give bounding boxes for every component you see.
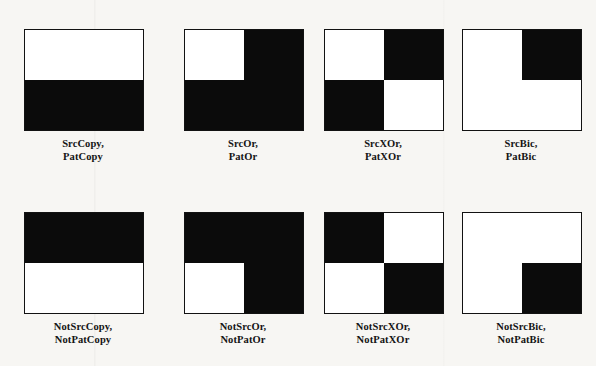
mode-cell-srcxor[interactable]: SrcXOr, PatXOr <box>318 22 448 182</box>
quadrant-bottom-right <box>244 80 303 130</box>
quadrant-bottom-right <box>384 80 443 130</box>
mode-cell-srcor[interactable]: SrcOr, PatOr <box>178 22 308 182</box>
pattern-swatch-srcor <box>184 29 304 131</box>
quadrant-bottom-right <box>84 80 143 130</box>
mode-cell-srccopy[interactable]: SrcCopy, PatCopy <box>18 22 148 182</box>
quadrant-top-right <box>522 30 581 80</box>
caption-line-2: PatCopy <box>18 150 148 163</box>
quadrant-bottom-right <box>84 263 143 313</box>
pattern-swatch-srcbic <box>462 29 582 131</box>
quadrant-top-right <box>384 30 443 80</box>
pattern-swatch-notsrcbic <box>462 212 582 314</box>
quadrant-bottom-right <box>244 263 303 313</box>
quadrant-top-left <box>185 213 244 263</box>
quadrant-bottom-right <box>522 80 581 130</box>
quadrant-top-left <box>463 213 522 263</box>
caption-line-1: NotSrcOr, <box>178 320 308 333</box>
quadrant-top-right <box>244 213 303 263</box>
mode-caption-notsrccopy: NotSrcCopy, NotPatCopy <box>18 320 148 346</box>
mode-cell-notsrccopy[interactable]: NotSrcCopy, NotPatCopy <box>18 205 148 365</box>
caption-line-2: PatBic <box>456 150 586 163</box>
caption-line-1: SrcXOr, <box>318 137 448 150</box>
raster-transfer-modes-figure: SrcCopy, PatCopy SrcOr, PatOr <box>0 0 596 366</box>
source-modes-row: SrcCopy, PatCopy SrcOr, PatOr <box>0 22 596 182</box>
quadrant-top-right <box>244 30 303 80</box>
mode-caption-srccopy: SrcCopy, PatCopy <box>18 137 148 163</box>
quadrant-bottom-left <box>25 80 84 130</box>
quadrant-bottom-right <box>384 263 443 313</box>
mode-cell-notsrcxor[interactable]: NotSrcXOr, NotPatXOr <box>318 205 448 365</box>
mode-caption-srcbic: SrcBic, PatBic <box>456 137 586 163</box>
caption-line-1: SrcBic, <box>456 137 586 150</box>
quadrant-bottom-left <box>325 80 384 130</box>
quadrant-top-right <box>384 213 443 263</box>
quadrant-bottom-left <box>185 80 244 130</box>
mode-caption-notsrcor: NotSrcOr, NotPatOr <box>178 320 308 346</box>
mode-cell-notsrcbic[interactable]: NotSrcBic, NotPatBic <box>456 205 586 365</box>
quadrant-bottom-left <box>185 263 244 313</box>
pattern-swatch-notsrcor <box>184 212 304 314</box>
caption-line-1: SrcCopy, <box>18 137 148 150</box>
caption-line-2: PatOr <box>178 150 308 163</box>
pattern-swatch-notsrcxor <box>324 212 444 314</box>
quadrant-top-right <box>522 213 581 263</box>
quadrant-top-right <box>84 213 143 263</box>
caption-line-2: NotPatCopy <box>18 333 148 346</box>
quadrant-bottom-right <box>522 263 581 313</box>
quadrant-top-left <box>463 30 522 80</box>
quadrant-bottom-left <box>25 263 84 313</box>
quadrant-bottom-left <box>325 263 384 313</box>
caption-line-1: SrcOr, <box>178 137 308 150</box>
pattern-swatch-notsrccopy <box>24 212 144 314</box>
quadrant-top-left <box>185 30 244 80</box>
quadrant-top-left <box>25 30 84 80</box>
quadrant-bottom-left <box>463 80 522 130</box>
mode-caption-notsrcxor: NotSrcXOr, NotPatXOr <box>318 320 448 346</box>
caption-line-1: NotSrcXOr, <box>318 320 448 333</box>
mode-cell-srcbic[interactable]: SrcBic, PatBic <box>456 22 586 182</box>
mode-cell-notsrcor[interactable]: NotSrcOr, NotPatOr <box>178 205 308 365</box>
caption-line-2: NotPatOr <box>178 333 308 346</box>
not-source-modes-row: NotSrcCopy, NotPatCopy NotSrcOr, NotPatO… <box>0 205 596 365</box>
mode-caption-srcor: SrcOr, PatOr <box>178 137 308 163</box>
caption-line-2: NotPatBic <box>456 333 586 346</box>
caption-line-2: PatXOr <box>318 150 448 163</box>
mode-caption-srcxor: SrcXOr, PatXOr <box>318 137 448 163</box>
caption-line-1: NotSrcCopy, <box>18 320 148 333</box>
caption-line-1: NotSrcBic, <box>456 320 586 333</box>
pattern-swatch-srcxor <box>324 29 444 131</box>
mode-caption-notsrcbic: NotSrcBic, NotPatBic <box>456 320 586 346</box>
quadrant-top-left <box>325 30 384 80</box>
quadrant-top-left <box>325 213 384 263</box>
caption-line-2: NotPatXOr <box>318 333 448 346</box>
pattern-swatch-srccopy <box>24 29 144 131</box>
quadrant-top-left <box>25 213 84 263</box>
quadrant-top-right <box>84 30 143 80</box>
quadrant-bottom-left <box>463 263 522 313</box>
